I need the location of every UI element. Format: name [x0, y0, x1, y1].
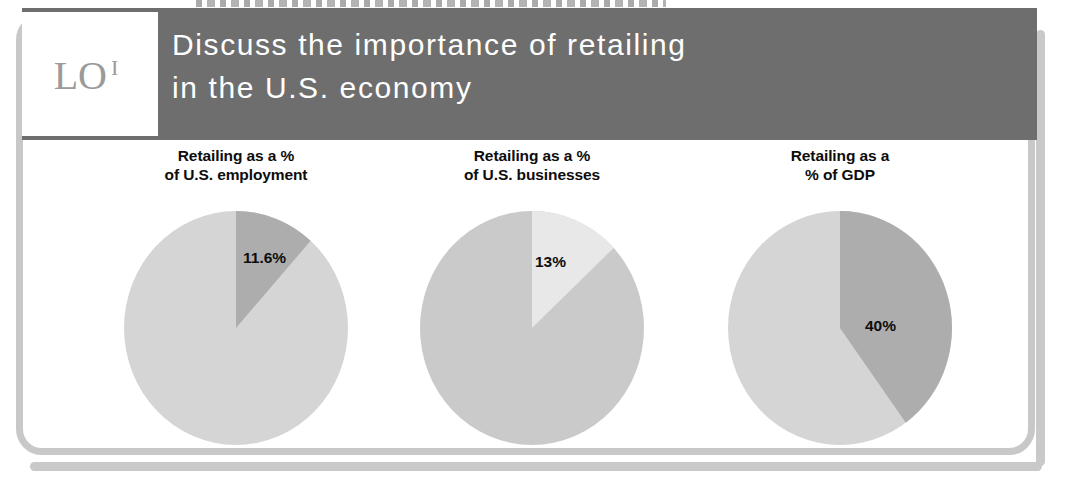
pie-chart-employment-graphic: 11.6% [121, 209, 351, 447]
learning-objective-badge: LOI [22, 12, 158, 136]
pie-gdp-svg [725, 209, 955, 447]
pie-chart-businesses-title-line-1: Retailing as a % [382, 146, 682, 165]
slide-title-line-2: in the U.S. economy [172, 67, 962, 110]
pie-businesses-value-label: 13% [535, 253, 566, 271]
pie-chart-employment: Retailing as a % of U.S. employment 11.6… [86, 146, 386, 447]
pie-employment-svg [121, 209, 351, 447]
pie-chart-gdp: Retailing as a % of GDP 40% [690, 146, 990, 447]
pie-businesses-svg [417, 209, 647, 447]
pie-chart-employment-title-line-1: Retailing as a % [86, 146, 386, 165]
charts-row: Retailing as a % of U.S. employment 11.6… [30, 146, 1025, 446]
lo-badge-number: I [111, 55, 118, 80]
pie-chart-employment-title-line-2: of U.S. employment [86, 165, 386, 184]
pie-chart-gdp-title: Retailing as a % of GDP [690, 146, 990, 185]
pie-gdp-slices [728, 211, 952, 445]
slide-title: Discuss the importance of retailing in t… [172, 24, 962, 109]
pie-chart-gdp-graphic: 40% [725, 209, 955, 447]
pie-chart-employment-title: Retailing as a % of U.S. employment [86, 146, 386, 185]
pie-employment-value-label: 11.6% [243, 249, 286, 267]
pie-chart-businesses-title: Retailing as a % of U.S. businesses [382, 146, 682, 185]
pie-chart-businesses-title-line-2: of U.S. businesses [382, 165, 682, 184]
slide-title-line-1: Discuss the importance of retailing [172, 24, 962, 67]
pie-employment-slices [124, 211, 348, 445]
pie-gdp-value-label: 40% [865, 317, 896, 335]
cut-off-text-sliver [196, 0, 666, 7]
frame-drop-shadow-bottom [30, 462, 1042, 471]
pie-chart-businesses-graphic: 13% [417, 209, 647, 447]
pie-chart-businesses: Retailing as a % of U.S. businesses 13% [382, 146, 682, 447]
lo-badge-mark: LOI [54, 56, 119, 96]
lo-badge-text: LO [54, 53, 107, 98]
pie-chart-gdp-title-line-1: Retailing as a [690, 146, 990, 165]
frame-drop-shadow-right [1036, 30, 1045, 466]
slide-canvas: LOI Discuss the importance of retailing … [0, 0, 1072, 484]
pie-chart-gdp-title-line-2: % of GDP [690, 165, 990, 184]
pie-businesses-slices [420, 211, 644, 445]
